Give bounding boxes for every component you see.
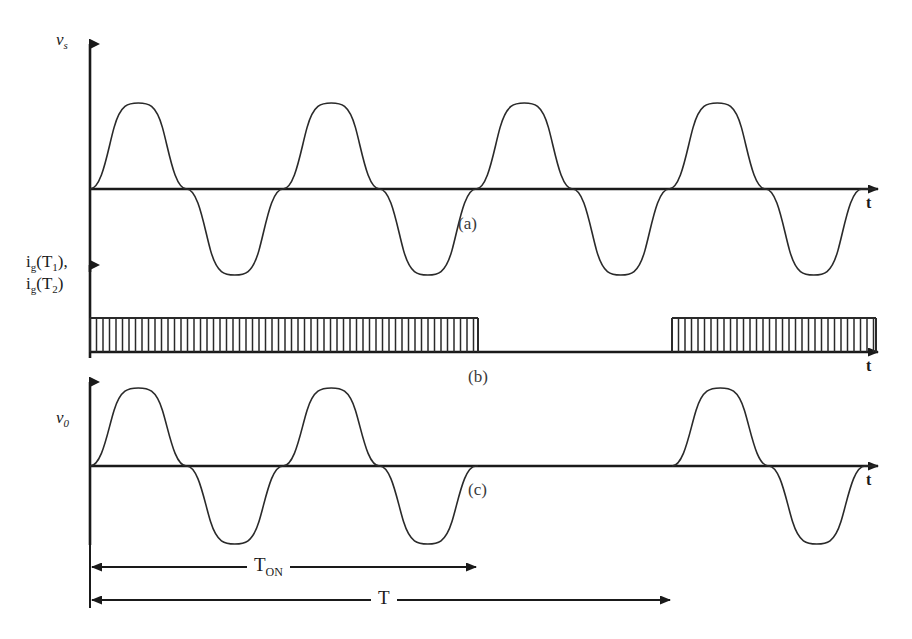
dimension-label-t-on: TON [247,555,290,578]
dimension-label-t-total: T [371,588,397,611]
panel-b-y-axis-label-line2: ig(T2) [26,274,68,296]
waveform-canvas [0,0,912,639]
panel-b-y-axis-label: ig(T1), ig(T2) [26,252,68,297]
panel-a-y-axis-label: vs [56,31,68,51]
panel-a-axes [90,44,878,272]
waveform-figure: vs t (a) ig(T1), ig(T2) t (b) v0 t (c) T… [0,0,912,639]
panel-c-y-axis-label: v0 [56,409,69,429]
panel-label-c: (c) [468,481,487,498]
gate-pulse-burst-2 [672,318,876,352]
panel-c-axes [90,382,878,545]
panel-b-axes [90,265,878,358]
panel-label-a: (a) [458,215,477,232]
gate-pulse-burst-1 [90,318,478,352]
panel-b-y-axis-label-line1: ig(T1), [26,252,68,274]
panel-label-b: (b) [468,368,488,385]
panel-c-x-axis-label: t [866,472,871,488]
panel-a-x-axis-label: t [866,195,871,211]
panel-b-x-axis-label: t [866,358,871,374]
